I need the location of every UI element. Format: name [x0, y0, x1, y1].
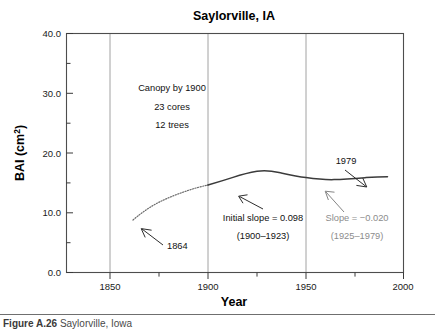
start-year-label: 1864 [167, 241, 188, 251]
caption-divider [0, 314, 435, 315]
y-axis-title-end: ) [13, 125, 27, 129]
initial-slope-line1: Initial slope = 0.098 [223, 213, 303, 223]
end-year-label: 1979 [336, 156, 357, 166]
canopy-note-line3: 12 trees [155, 120, 189, 130]
y-tick-label-0: 0.0 [48, 267, 61, 278]
late-slope-arrow-shaft [326, 192, 344, 212]
late-slope-line1: Slope = −0.020 [325, 213, 388, 223]
initial-slope-line2: (1900–1923) [237, 231, 290, 241]
x-tick-label-2000: 2000 [392, 281, 413, 292]
y-tick-label-20: 20.0 [43, 148, 62, 159]
canopy-note-line1: Canopy by 1900 [138, 83, 206, 93]
y-axis-title-main: BAI (cm [13, 134, 27, 181]
x-tick-label-1950: 1950 [295, 281, 316, 292]
svg-text:BAI (cm2): BAI (cm2) [12, 125, 27, 181]
y-tick-label-30: 30.0 [43, 88, 62, 99]
data-curve-solid [208, 171, 388, 185]
x-tick-label-1850: 1850 [99, 281, 120, 292]
y-axis-title: BAI (cm2) [12, 125, 27, 181]
initial-slope-arrow-head [239, 195, 248, 203]
annotation-start-year: 1864 [141, 229, 187, 251]
canopy-note-line2: 23 cores [154, 102, 190, 112]
caption-number: Figure A.26 [3, 319, 57, 329]
chart-title: Saylorville, IA [193, 9, 275, 23]
y-tick-label-10: 10.0 [43, 207, 62, 218]
bai-line-chart: Saylorville, IA 0.0 10.0 20.0 30.0 40.0 [0, 0, 435, 329]
annotation-end-year: 1979 [336, 156, 367, 187]
y-tick-label-40: 40.0 [43, 28, 62, 39]
annotation-initial-slope: Initial slope = 0.098 (1900–1923) [223, 195, 303, 241]
caption-text: Saylorville, Iowa [60, 319, 132, 329]
x-tick-label-1900: 1900 [197, 281, 218, 292]
x-axis-title: Year [221, 295, 248, 309]
annotation-canopy-note: Canopy by 1900 23 cores 12 trees [138, 83, 206, 130]
data-curve-dotted [133, 185, 208, 220]
figure-caption: Figure A.26 Saylorville, Iowa [0, 319, 435, 329]
figure-container: Saylorville, IA 0.0 10.0 20.0 30.0 40.0 [0, 0, 435, 329]
late-slope-line2: (1925–1979) [331, 231, 384, 241]
annotation-late-slope: Slope = −0.020 (1925–1979) [325, 191, 388, 241]
